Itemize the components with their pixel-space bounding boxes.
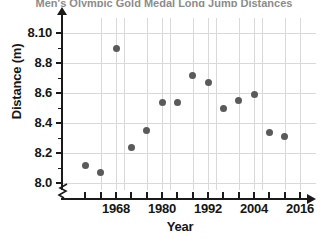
- scatter-chart-figure: Men's Olympic Gold Medal Long Jump Dista…: [0, 0, 328, 241]
- y-axis-tick: [56, 62, 63, 64]
- x-axis-tick: [284, 192, 286, 199]
- data-point: [82, 162, 89, 169]
- y-axis-arrow-icon: [57, 7, 67, 15]
- plot-area: [62, 18, 316, 190]
- data-point: [174, 99, 181, 106]
- y-axis-tick: [56, 32, 63, 34]
- x-axis-tick: [253, 192, 255, 199]
- x-axis-title: Year: [120, 219, 240, 234]
- gridline-vertical: [101, 18, 102, 190]
- x-axis-tick: [299, 192, 301, 199]
- y-axis-line: [61, 14, 63, 190]
- x-axis-tick: [268, 192, 270, 199]
- x-axis-tick: [161, 192, 163, 199]
- gridline-vertical: [193, 18, 194, 190]
- x-axis-tick: [130, 192, 132, 199]
- data-point: [128, 144, 135, 151]
- x-axis-tick: [238, 192, 240, 199]
- y-axis-tick: [56, 92, 63, 94]
- y-axis-tick: [56, 182, 63, 184]
- x-axis-tick: [84, 192, 86, 199]
- y-axis-minor-tick: [58, 48, 63, 49]
- y-axis-tick-label: 8.0: [0, 175, 52, 190]
- gridline-vertical: [124, 18, 125, 190]
- gridline-vertical: [147, 18, 148, 190]
- gridline-vertical: [170, 18, 171, 190]
- x-axis-tick-label: 1968: [92, 201, 140, 216]
- x-axis-tick-label: 1992: [184, 201, 232, 216]
- y-axis-minor-tick: [58, 168, 63, 169]
- y-axis-tick-label: 8.6: [0, 85, 52, 100]
- gridline-vertical: [216, 18, 217, 190]
- axis-break-icon: [55, 183, 69, 200]
- x-axis-line: [61, 198, 309, 200]
- x-axis-tick: [100, 192, 102, 199]
- data-point: [113, 45, 120, 52]
- gridline-vertical: [208, 18, 209, 190]
- y-axis-tick: [56, 122, 63, 124]
- x-axis-tick: [192, 192, 194, 199]
- x-axis-tick-label: 2016: [276, 201, 324, 216]
- data-point: [266, 129, 273, 136]
- gridline-vertical: [262, 18, 263, 190]
- y-axis-tick: [56, 152, 63, 154]
- gridline-vertical: [239, 18, 240, 190]
- y-axis-tick-label: 8.10: [0, 25, 52, 40]
- y-axis-minor-tick: [58, 78, 63, 79]
- y-axis-minor-tick: [58, 108, 63, 109]
- gridline-vertical: [254, 18, 255, 190]
- chart-title-cropped: Men's Olympic Gold Medal Long Jump Dista…: [0, 0, 328, 7]
- data-point: [159, 99, 166, 106]
- y-axis-minor-tick: [58, 138, 63, 139]
- x-axis-tick-label: 2004: [230, 201, 278, 216]
- y-axis-tick-label: 8.8: [0, 55, 52, 70]
- x-axis-tick: [146, 192, 148, 199]
- data-point: [189, 72, 196, 79]
- x-axis-tick: [176, 192, 178, 199]
- data-point: [205, 79, 212, 86]
- gridline-vertical: [300, 18, 301, 190]
- x-axis-tick: [222, 192, 224, 199]
- gridline-vertical: [116, 18, 117, 190]
- x-axis-tick-label: 1980: [138, 201, 186, 216]
- x-axis-tick: [115, 192, 117, 199]
- data-point: [220, 105, 227, 112]
- x-axis-tick: [207, 192, 209, 199]
- gridline-vertical: [285, 18, 286, 190]
- data-point: [251, 91, 258, 98]
- y-axis-tick-label: 8.4: [0, 115, 52, 130]
- y-axis-tick-label: 8.2: [0, 145, 52, 160]
